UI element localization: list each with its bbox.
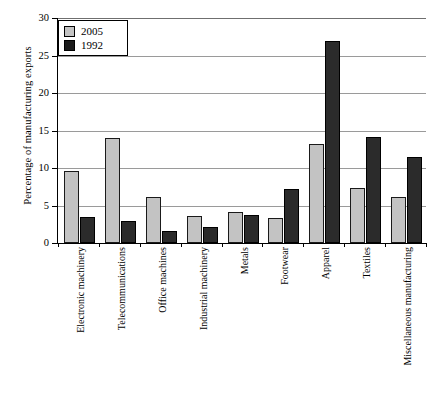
x-category-label: Office machines — [158, 247, 168, 313]
bar-group — [145, 18, 178, 243]
x-category-label: Industrial machinery — [199, 247, 209, 330]
bar-1992 — [325, 41, 340, 244]
legend-swatch-2005-icon — [64, 26, 75, 37]
bar-group — [349, 18, 382, 243]
bar-2005 — [268, 218, 283, 243]
y-tick-label-30: 30 — [23, 13, 49, 23]
bar-1992 — [203, 227, 218, 244]
legend: 2005 1992 — [58, 20, 128, 56]
legend-swatch-1992-icon — [64, 40, 75, 51]
bar-2005 — [309, 144, 324, 243]
bar-chart: Percentage of manufacturing exports 0510… — [0, 0, 437, 395]
bar-1992 — [121, 221, 136, 244]
bar-2005 — [391, 197, 406, 244]
y-tick-label-15: 15 — [23, 126, 49, 136]
bar-2005 — [350, 188, 365, 243]
bar-1992 — [162, 231, 177, 243]
x-category-label: Footwear — [280, 247, 290, 285]
y-tick-label-10: 10 — [23, 163, 49, 173]
y-tick-label-20: 20 — [23, 88, 49, 98]
x-category-label: Miscellaneous manufacturing — [403, 247, 413, 366]
bar-2005 — [105, 138, 120, 243]
bar-2005 — [228, 212, 243, 244]
y-tick-label-0: 0 — [23, 238, 49, 248]
legend-label-2005: 2005 — [81, 26, 103, 37]
x-category-label: Metals — [240, 247, 250, 274]
bar-group — [227, 18, 260, 243]
bar-1992 — [407, 157, 422, 243]
legend-label-1992: 1992 — [81, 40, 103, 51]
legend-item-1992: 1992 — [64, 38, 123, 52]
legend-item-2005: 2005 — [64, 24, 123, 38]
x-category-label: Telecommunications — [117, 247, 127, 330]
bar-1992 — [244, 215, 259, 244]
bar-2005 — [146, 197, 161, 243]
bar-group — [308, 18, 341, 243]
bar-group — [267, 18, 300, 243]
bar-1992 — [284, 189, 299, 243]
x-axis-category-labels: Electronic machineryTelecommunicationsOf… — [57, 247, 425, 395]
x-category-label: Textiles — [362, 247, 372, 279]
bar-group — [186, 18, 219, 243]
bar-1992 — [80, 217, 95, 243]
x-tick-mark — [426, 243, 427, 247]
bar-1992 — [366, 137, 381, 244]
x-category-label: Apparel — [321, 247, 331, 279]
x-category-label: Electronic machinery — [76, 247, 86, 333]
y-tick-label-5: 5 — [23, 201, 49, 211]
bar-2005 — [64, 171, 79, 243]
y-tick-label-25: 25 — [23, 51, 49, 61]
bar-group — [390, 18, 423, 243]
bar-2005 — [187, 216, 202, 243]
